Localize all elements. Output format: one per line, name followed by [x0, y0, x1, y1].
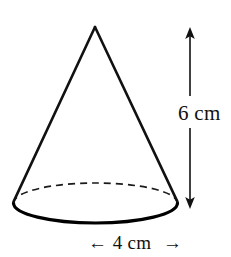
- height-label: 6 cm: [178, 101, 221, 125]
- base-width-label: 4 cm: [113, 232, 152, 253]
- base-left-arrow-icon: ←: [88, 232, 107, 253]
- cone-figure: 6 cm ← 4 cm →: [0, 0, 231, 257]
- canvas-background: [0, 0, 231, 257]
- cone-svg-canvas: 6 cm ← 4 cm →: [0, 0, 231, 257]
- base-right-arrow-icon: →: [163, 232, 182, 253]
